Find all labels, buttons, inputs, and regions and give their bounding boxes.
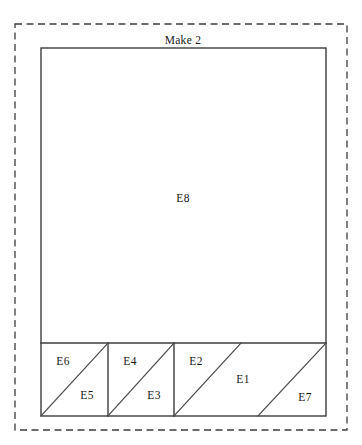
piece-label-E2: E2: [189, 355, 202, 367]
piece-label-E6: E6: [56, 355, 69, 367]
quilt-block-diagram: Make 2 E8 E6 E5 E4 E3 E2 E1 E7: [0, 0, 362, 445]
make-quantity-label: Make 2: [165, 34, 202, 46]
piece-label-E3: E3: [147, 389, 160, 401]
piece-label-E4: E4: [123, 355, 136, 367]
diagram-canvas: Make 2 E8 E6 E5 E4 E3 E2 E1 E7: [0, 0, 362, 445]
piece-label-E1: E1: [236, 373, 249, 385]
piece-label-E7: E7: [298, 391, 311, 403]
piece-label-E5: E5: [80, 389, 93, 401]
piece-label-E8: E8: [176, 192, 189, 204]
